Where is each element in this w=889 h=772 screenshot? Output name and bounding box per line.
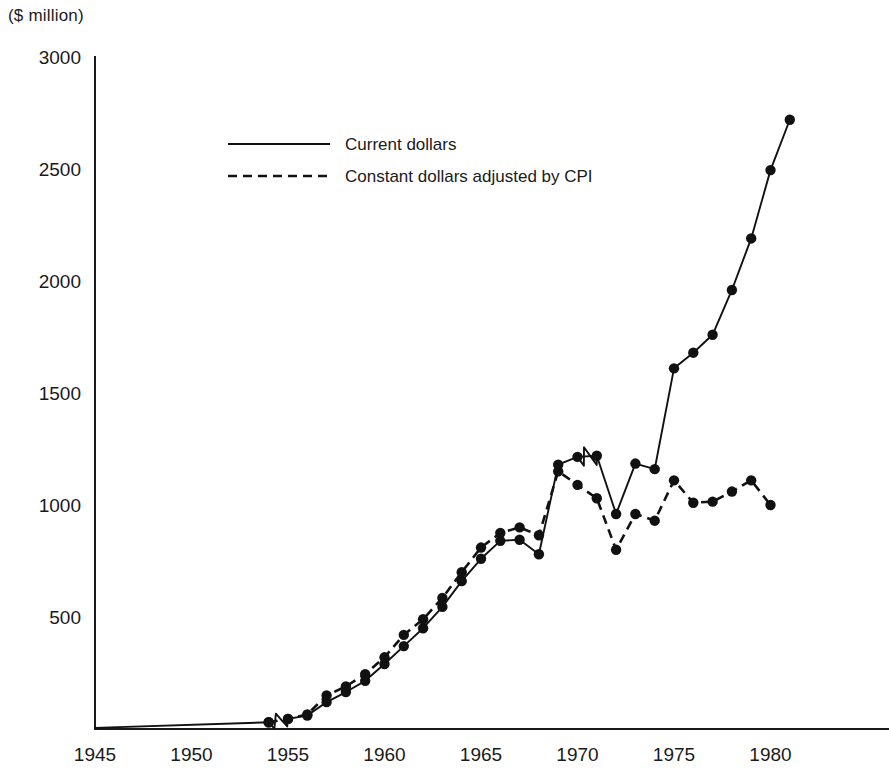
series-line [95, 120, 790, 729]
data-point-marker [669, 363, 679, 373]
y-axis-tick-labels: 30002500200015001000500 [39, 47, 81, 628]
data-point-marker [707, 496, 717, 506]
data-point-marker [476, 554, 486, 564]
chart-axes [95, 57, 889, 729]
data-point-marker [688, 498, 698, 508]
legend-label: Current dollars [345, 135, 457, 154]
data-point-marker [360, 669, 370, 679]
data-point-marker [302, 709, 312, 719]
series-layer [95, 115, 795, 729]
data-point-marker [630, 458, 640, 468]
chart-container: ($ million) 30002500200015001000500 1945… [0, 0, 889, 772]
y-tick-label: 500 [49, 607, 81, 628]
data-point-marker [611, 545, 621, 555]
data-point-marker [418, 623, 428, 633]
data-point-marker [611, 509, 621, 519]
x-tick-label: 1955 [267, 744, 309, 765]
series-constant-dollars [264, 466, 776, 727]
data-point-marker [592, 451, 602, 461]
y-tick-label: 1000 [39, 495, 81, 516]
data-point-marker [650, 464, 660, 474]
data-point-marker [457, 567, 467, 577]
data-point-marker [785, 115, 795, 125]
y-tick-label: 2500 [39, 159, 81, 180]
data-point-marker [534, 549, 544, 559]
data-point-marker [688, 347, 698, 357]
data-point-marker [321, 690, 331, 700]
y-tick-label: 3000 [39, 47, 81, 68]
y-tick-label: 1500 [39, 383, 81, 404]
data-point-marker [283, 714, 293, 724]
data-point-marker [572, 452, 582, 462]
data-point-marker [707, 330, 717, 340]
data-point-marker [765, 165, 775, 175]
data-point-marker [379, 652, 389, 662]
x-tick-label: 1945 [74, 744, 116, 765]
data-point-marker [418, 614, 428, 624]
data-point-marker [669, 475, 679, 485]
x-tick-label: 1980 [749, 744, 791, 765]
data-point-marker [534, 530, 544, 540]
legend-label: Constant dollars adjusted by CPI [345, 167, 593, 186]
data-point-marker [765, 500, 775, 510]
chart-legend: Current dollarsConstant dollars adjusted… [228, 135, 593, 186]
data-point-marker [572, 480, 582, 490]
series-current-dollars [95, 115, 795, 729]
data-point-marker [264, 717, 274, 727]
data-point-marker [341, 681, 351, 691]
data-point-marker [592, 493, 602, 503]
data-point-marker [746, 233, 756, 243]
data-point-marker [650, 515, 660, 525]
data-point-marker [553, 466, 563, 476]
data-point-marker [495, 528, 505, 538]
data-point-marker [630, 509, 640, 519]
x-tick-label: 1970 [556, 744, 598, 765]
x-tick-label: 1960 [363, 744, 405, 765]
data-point-marker [437, 593, 447, 603]
x-axis-tick-labels: 19451950195519601965197019751980 [74, 744, 792, 765]
data-point-marker [399, 641, 409, 651]
data-point-marker [514, 522, 524, 532]
data-point-marker [746, 475, 756, 485]
data-point-marker [476, 542, 486, 552]
x-tick-label: 1950 [170, 744, 212, 765]
data-point-marker [727, 285, 737, 295]
data-point-marker [727, 486, 737, 496]
x-tick-label: 1975 [653, 744, 695, 765]
y-tick-label: 2000 [39, 271, 81, 292]
data-point-marker [399, 630, 409, 640]
x-tick-label: 1965 [460, 744, 502, 765]
line-chart-plot: 30002500200015001000500 1945195019551960… [0, 0, 889, 772]
data-point-marker [514, 535, 524, 545]
